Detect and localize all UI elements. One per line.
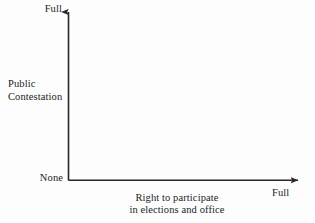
x-axis-title: Right to participate in elections and of… [112,192,242,215]
y-axis-max-label: Full [0,3,62,15]
x-axis-max-label: Full [272,187,312,199]
figure-canvas: Full Public Contestation None Right to p… [0,0,315,223]
axes-drawing [0,0,315,223]
y-axis-title: Public Contestation [8,78,66,103]
y-axis-min-label: None [0,172,63,184]
